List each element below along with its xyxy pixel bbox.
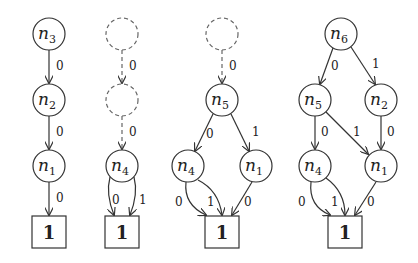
node-n6: n6	[325, 18, 357, 50]
edge-n4-t: 1	[326, 178, 345, 215]
terminal-label: 1	[116, 222, 129, 243]
edge-label: 0	[129, 59, 137, 73]
edge-label: 1	[139, 193, 147, 207]
edge-label: 1	[252, 125, 260, 139]
edge-label: 0	[129, 125, 137, 139]
edge-n2-n1: 0	[49, 116, 64, 149]
edge-n4-t: 1	[198, 180, 222, 215]
placeholder-node	[206, 18, 238, 50]
placeholder-node	[106, 18, 138, 50]
edge-label: 1	[331, 195, 339, 209]
edge-line	[326, 112, 368, 154]
edge-a-b: 0	[122, 50, 137, 83]
edge-b-n4: 0	[122, 116, 137, 149]
terminal-node: 1	[32, 216, 66, 248]
node-n4: n4	[106, 150, 138, 182]
terminal-node: 1	[328, 216, 362, 248]
node-n3: n3	[33, 18, 65, 50]
edge-a-n5: 0	[222, 50, 237, 83]
edge-label: 0	[112, 193, 120, 207]
edge-n1-t: 0	[232, 182, 252, 215]
diagram-1: 000n3n2n11	[32, 18, 66, 248]
edge-line	[231, 114, 249, 151]
edge-label: 0	[321, 125, 329, 139]
edge-label: 1	[372, 57, 380, 71]
edge-label: 0	[56, 191, 64, 205]
edge-n6-n2: 1	[351, 47, 380, 84]
diagram-3: 001010n5n4n11	[172, 18, 272, 248]
diagram-2: 0001n41	[105, 18, 147, 248]
edge-line	[311, 182, 330, 215]
node-n1: n1	[33, 150, 65, 182]
node-n4: n4	[172, 150, 204, 182]
node-n1: n1	[240, 150, 272, 182]
edge-line	[130, 177, 136, 215]
edge-n5-n4: 0	[195, 114, 214, 151]
edge-label: 0	[244, 195, 252, 209]
edge-n1-t: 0	[49, 182, 64, 215]
edge-n4-t: 0	[108, 177, 119, 215]
edge-label: 0	[367, 195, 375, 209]
node-n2: n2	[365, 84, 397, 116]
terminal-label: 1	[43, 222, 56, 243]
node-n5: n5	[299, 84, 331, 116]
terminal-label: 1	[339, 222, 352, 243]
node-n5: n5	[206, 84, 238, 116]
placeholder-node	[106, 84, 138, 116]
edge-label: 1	[353, 125, 361, 139]
edge-n2-n1: 0	[381, 116, 395, 149]
terminal-node: 1	[105, 216, 139, 248]
edge-label: 0	[298, 195, 306, 209]
edge-n1-t: 0	[355, 182, 376, 215]
edge-label: 0	[387, 125, 395, 139]
node-n2: n2	[33, 84, 65, 116]
edge-label: 0	[331, 59, 339, 73]
terminal-label: 1	[216, 222, 229, 243]
diagram-4: 01010010n6n5n2n4n11	[298, 18, 397, 248]
edge-label: 0	[175, 195, 183, 209]
edge-n4-t: 0	[175, 182, 206, 215]
node-n1: n1	[365, 150, 397, 182]
edge-n3-n2: 0	[49, 50, 64, 83]
terminal-node: 1	[205, 216, 239, 248]
edge-label: 1	[207, 195, 215, 209]
bdd-diagrams: 000n3n2n110001n41001010n5n4n1101010010n6…	[0, 0, 418, 263]
edge-n5-n1: 1	[231, 114, 260, 151]
edge-label: 0	[206, 127, 214, 141]
edge-n4-t: 0	[298, 182, 330, 215]
edge-label: 0	[56, 59, 64, 73]
edge-label: 0	[56, 125, 64, 139]
node-n4: n4	[299, 150, 331, 182]
edge-label: 0	[229, 59, 237, 73]
edge-n5-n1: 1	[326, 112, 368, 154]
edge-n6-n5: 0	[320, 48, 339, 84]
edge-n4-t: 1	[130, 177, 147, 215]
edge-n5-n4: 0	[315, 116, 329, 149]
edge-line	[186, 182, 206, 215]
